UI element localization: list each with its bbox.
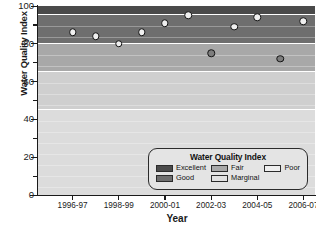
legend-label: Poor [284,164,300,172]
x-tick [211,195,212,200]
legend-column-1: ExcellentGood [156,164,206,182]
legend-label: Fair [231,164,244,172]
y-tick-minor [33,100,37,101]
legend-label: Good [176,174,194,182]
y-tick-minor [33,138,37,139]
y-tick-label: 0 [0,189,34,200]
legend-label: Marginal [231,174,259,182]
legend-item-marginal: Marginal [211,174,259,182]
legend-title: Water Quality Index [153,152,303,162]
data-point [161,19,169,27]
y-tick-label: 40 [0,113,34,124]
x-tick [303,195,304,200]
legend-item-excellent: Excellent [156,164,206,172]
data-point [300,17,308,25]
x-tick-label: 2000-01 [142,201,188,210]
data-point [207,50,215,58]
band-hairline [38,94,315,95]
legend-swatch-good [156,175,173,182]
legend-swatch-poor [264,165,281,172]
data-point [138,29,146,37]
data-point [230,23,238,31]
y-tick-minor [33,176,37,177]
x-tick [118,195,119,200]
y-axis-title: Water Quality Index [18,0,29,124]
band-hairline [38,121,315,122]
x-tick-label: 2002-03 [188,201,234,210]
legend-item-fair: Fair [211,164,259,172]
data-point [69,29,77,37]
legend-column-2: FairMarginal [211,164,259,182]
band-hairline [38,143,315,144]
legend-label: Excellent [176,164,206,172]
y-axis-line [37,5,38,196]
x-tick-label: 2004-05 [234,201,280,210]
x-axis-title: Year [38,213,316,224]
y-tick-minor [33,24,37,25]
x-tick [164,195,165,200]
band-hairline [38,66,315,67]
band-good [38,15,315,43]
data-point [92,32,100,40]
band-hairline [38,37,315,38]
y-tick-label: 80 [0,38,34,49]
legend-swatch-excellent [156,165,173,172]
y-tick-label: 60 [0,76,34,87]
band-hairline [38,55,315,56]
x-tick [72,195,73,200]
data-point [277,55,285,63]
data-point [184,12,192,20]
legend-item-good: Good [156,174,206,182]
x-tick [257,195,258,200]
band-hairline [38,105,315,106]
legend-item-poor: Poor [264,164,300,172]
data-point [254,14,262,22]
x-tick-label: 1996-97 [50,201,96,210]
chart-legend: Water Quality Index ExcellentGoodFairMar… [148,148,308,190]
legend-columns: ExcellentGoodFairMarginalPoor [153,164,303,182]
legend-swatch-marginal [211,175,228,182]
band-hairline [38,132,315,133]
band-hairline [38,26,315,27]
y-tick-label: 100 [0,0,34,11]
legend-swatch-fair [211,165,228,172]
chart-root: Water Quality Index 020406080100 1996-97… [0,0,316,230]
legend-column-3: Poor [264,164,300,182]
y-tick-label: 20 [0,151,34,162]
y-tick-minor [33,62,37,63]
band-hairline [38,83,315,84]
x-tick-label: 2006-07 [280,201,316,210]
x-tick-label: 1998-99 [96,201,142,210]
band-fair [38,44,315,72]
data-point [115,40,123,48]
